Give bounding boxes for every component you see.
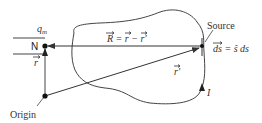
field-point-label: N bbox=[31, 41, 38, 52]
element-equation: ds = ŝ ds bbox=[213, 43, 249, 54]
biot-savart-diagram: qm N r Origin Source R = r − r′ r′ ds = … bbox=[0, 0, 262, 123]
position-vector-label: r bbox=[34, 57, 38, 68]
current-loop bbox=[72, 10, 205, 104]
source-dot bbox=[200, 44, 204, 48]
source-vector-label: r′ bbox=[174, 66, 181, 77]
current-arrow-icon bbox=[199, 83, 205, 91]
current-label: I bbox=[206, 87, 211, 98]
field-point-dot bbox=[42, 43, 47, 48]
origin-dot bbox=[42, 93, 47, 98]
source-leader bbox=[205, 30, 213, 42]
origin-leader bbox=[37, 97, 44, 106]
r-arrow-icon bbox=[42, 48, 48, 56]
charge-label: qm bbox=[37, 23, 47, 36]
origin-label: Origin bbox=[10, 109, 36, 120]
source-label: Source bbox=[207, 20, 235, 31]
